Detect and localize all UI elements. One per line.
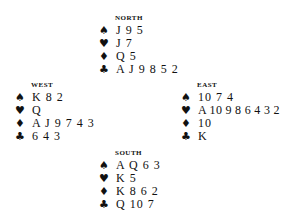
spade-icon: ♠ — [98, 24, 110, 37]
club-icon: ♣ — [98, 198, 110, 211]
cards-clubs: A J 9 8 5 2 — [116, 63, 179, 76]
diamond-icon: ♦ — [180, 117, 192, 130]
heart-icon: ♥ — [180, 104, 192, 117]
diamond-icon: ♦ — [98, 50, 110, 63]
cards-clubs: 6 4 3 — [32, 130, 61, 143]
club-icon: ♣ — [180, 130, 192, 143]
cards-clubs: Q 10 7 — [116, 198, 155, 211]
heart-icon: ♥ — [14, 104, 26, 117]
cards-clubs: K — [198, 130, 208, 143]
club-icon: ♣ — [98, 63, 110, 76]
diamond-icon: ♦ — [98, 185, 110, 198]
diamond-icon: ♦ — [14, 117, 26, 130]
spade-icon: ♠ — [98, 159, 110, 172]
heart-icon: ♥ — [98, 172, 110, 185]
club-icon: ♣ — [14, 130, 26, 143]
heart-icon: ♥ — [98, 37, 110, 50]
hand-label-north: NORTH — [115, 14, 143, 22]
hand-label-south: SOUTH — [115, 149, 142, 157]
spade-icon: ♠ — [14, 91, 26, 104]
hand-label-west: WEST — [31, 81, 53, 89]
spade-icon: ♠ — [180, 91, 192, 104]
hand-label-east: EAST — [197, 81, 217, 89]
